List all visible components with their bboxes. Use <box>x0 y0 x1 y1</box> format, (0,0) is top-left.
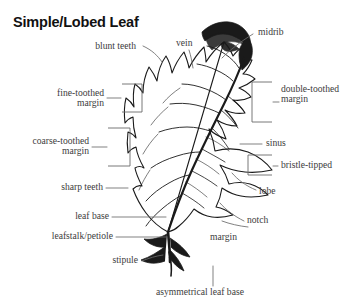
label-bristle-tipped: bristle-tipped <box>281 160 332 171</box>
leaf-tip-dark-hook <box>202 22 252 70</box>
leader-blunt-teeth <box>143 46 162 62</box>
label-stipule: stipule <box>69 255 138 266</box>
midrib-line <box>168 58 244 232</box>
leader-lobe <box>232 173 256 190</box>
label-vein: vein <box>176 38 193 49</box>
label-coarse-toothed-margin-line2: margin <box>8 146 89 157</box>
label-sinus: sinus <box>266 138 286 149</box>
leader-notch <box>220 203 244 221</box>
label-margin: margin <box>210 232 237 243</box>
bracket-double-toothed-margin <box>252 82 272 122</box>
leaf-diagram-page: Simple/Lobed Leaf <box>0 0 364 308</box>
label-leafstalk-petiole: leafstalk/petiole <box>22 231 113 242</box>
label-fine-toothed-margin-line2: margin <box>24 98 104 109</box>
label-sharp-teeth: sharp teeth <box>35 182 103 193</box>
midrib-and-veins <box>139 46 244 232</box>
leader-margin <box>222 221 248 227</box>
label-leaf-base: leaf base <box>40 211 109 222</box>
petiole-and-stipules <box>141 232 190 276</box>
label-double-toothed-margin-line2: margin <box>281 94 308 105</box>
stipule-lower-left <box>141 246 166 263</box>
bracket-coarse-toothed-margin <box>108 128 130 166</box>
label-midrib: midrib <box>258 27 284 38</box>
leader-lines <box>92 34 279 286</box>
label-notch: notch <box>247 215 268 226</box>
label-lobe: lobe <box>259 186 276 197</box>
label-asymmetrical-leaf-base: asymmetrical leaf base <box>156 287 244 298</box>
label-blunt-teeth: blunt teeth <box>58 41 136 52</box>
stipule-left <box>144 234 167 247</box>
